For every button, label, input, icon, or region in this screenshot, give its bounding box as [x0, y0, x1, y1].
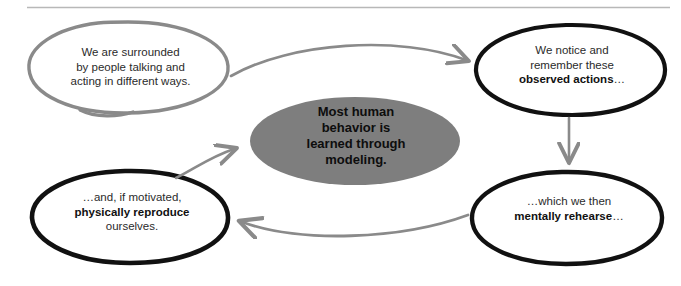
bubble-bottom-left: [32, 171, 228, 263]
bubble-bottom-right: [472, 172, 662, 264]
bubble-top-right: [476, 25, 665, 115]
diagram-page: We are surrounded by people talking and …: [0, 0, 681, 286]
arrow-bottom-left-to-center: [176, 149, 234, 178]
bubble-center: [250, 97, 460, 185]
diagram-canvas: [0, 0, 681, 286]
bubble-top-left: [29, 22, 228, 116]
arrow-bottom-right-to-bottom-left: [242, 215, 468, 236]
arrow-top-left-to-top-right: [231, 45, 466, 76]
